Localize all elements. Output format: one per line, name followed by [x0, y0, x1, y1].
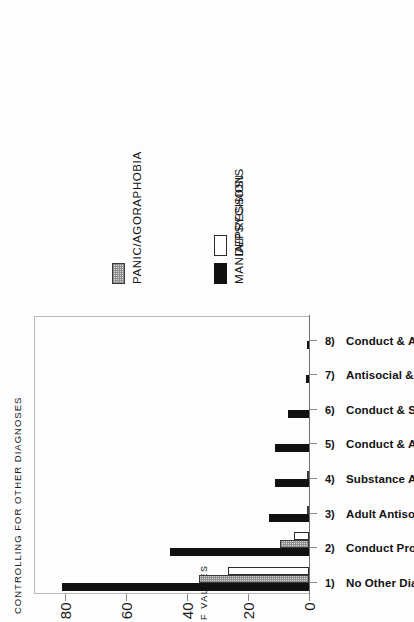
legend-hatched-gray-swatch [112, 263, 125, 284]
legend-label: DEPRESSION [233, 175, 245, 256]
figure-canvas: CONTROLLING FOR OTHER DIAGNOSES 02040608… [0, 0, 414, 622]
chart-legend: MANIA/PSYCHOSISPANIC/AGORAPHOBIADEPRESSI… [0, 0, 414, 622]
legend-label: PANIC/AGORAPHOBIA [131, 151, 143, 284]
rotated-figure: CONTROLLING FOR OTHER DIAGNOSES 02040608… [0, 0, 414, 622]
legend-solid-black-swatch [214, 263, 227, 284]
legend-outline-white-swatch [214, 235, 227, 256]
